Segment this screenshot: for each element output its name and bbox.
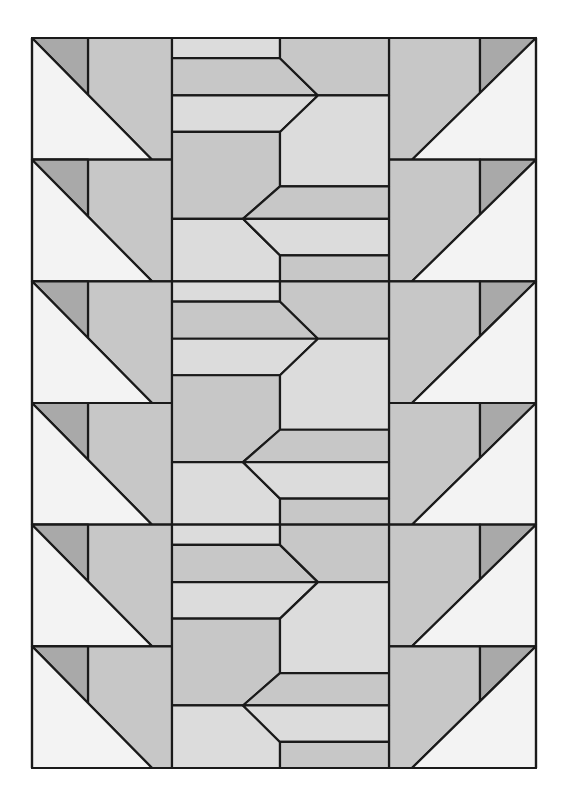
quilt-pattern — [0, 0, 569, 807]
center-left-bar — [172, 38, 280, 58]
center-left-bar — [172, 525, 280, 545]
center-left-bar — [172, 281, 280, 301]
center-right-bar — [280, 255, 389, 281]
center-right-bar — [280, 499, 389, 525]
center-right-bar — [280, 742, 389, 768]
center-column — [172, 38, 389, 768]
